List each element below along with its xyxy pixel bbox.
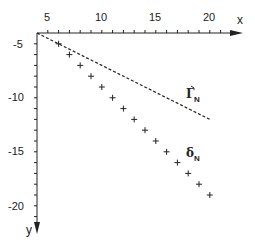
- x-tick-label-15: 15: [149, 11, 161, 23]
- plus-marker-icon: [142, 127, 148, 133]
- plus-marker-icon: [174, 160, 180, 166]
- x-axis-label: x: [237, 13, 243, 27]
- plus-marker-icon: [77, 62, 83, 68]
- delta-label: δ N: [186, 146, 200, 163]
- plus-marker-icon: [153, 138, 159, 144]
- delta-label-main: δ: [186, 146, 194, 160]
- plus-marker-icon: [99, 84, 105, 90]
- plus-marker-icon: [164, 149, 170, 155]
- x-tick-label-5: 5: [44, 11, 50, 23]
- plus-marker-icon: [185, 170, 191, 176]
- y-axis-arrow-icon: [34, 222, 40, 234]
- y-axis-label: y: [26, 223, 32, 237]
- x-axis-arrow-icon: [230, 30, 243, 36]
- chart: 5 10 15 20 x -5 -10 -15 -20 y Γ N δ N: [0, 0, 255, 247]
- plus-marker-icon: [56, 41, 62, 47]
- plus-marker-icon: [66, 52, 72, 58]
- series-delta-markers: [56, 41, 213, 198]
- plus-marker-icon: [196, 181, 202, 187]
- plus-marker-icon: [88, 73, 94, 79]
- y-tick-label-minus5: -5: [13, 38, 23, 50]
- y-tick-label-minus15: -15: [8, 145, 24, 157]
- gamma-label-sub: N: [194, 95, 200, 104]
- x-axis: 5 10 15 20 x: [37, 11, 243, 36]
- plus-marker-icon: [207, 192, 213, 198]
- y-tick-label-minus10: -10: [8, 91, 24, 103]
- plus-marker-icon: [120, 106, 126, 112]
- delta-label-sub: N: [194, 154, 200, 163]
- plus-marker-icon: [110, 95, 116, 101]
- gamma-label: Γ N: [186, 86, 200, 104]
- x-tick-label-20: 20: [203, 11, 215, 23]
- plus-marker-icon: [131, 116, 137, 122]
- x-tick-label-10: 10: [95, 11, 107, 23]
- y-axis: -5 -10 -15 -20 y: [8, 33, 40, 237]
- y-tick-label-minus20: -20: [8, 200, 24, 212]
